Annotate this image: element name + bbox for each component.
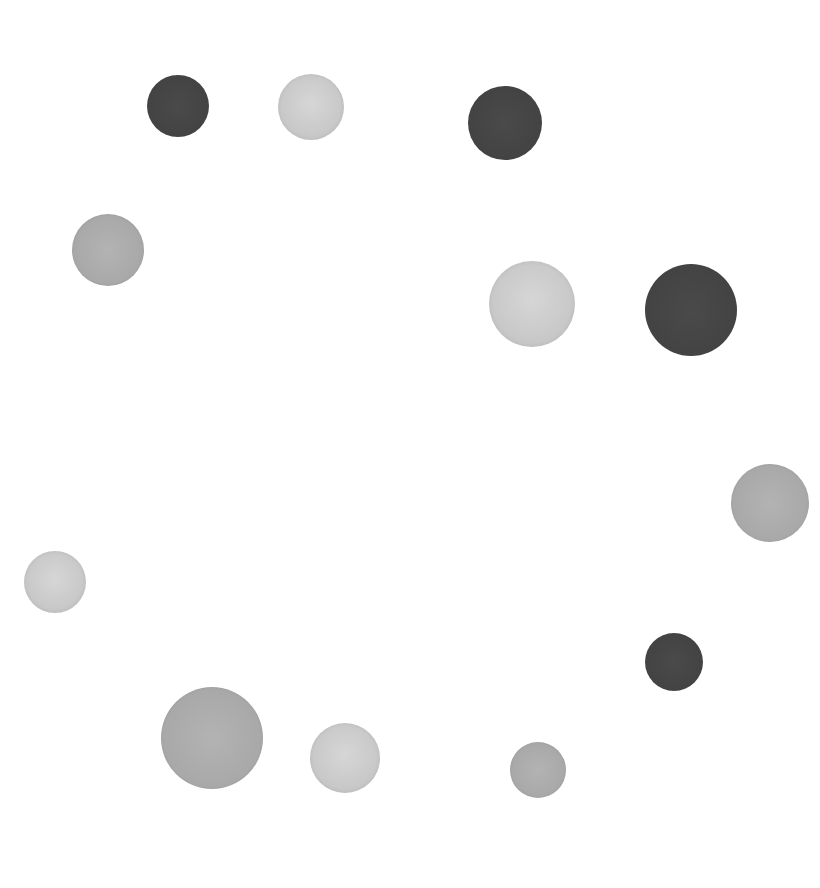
painted-dots-canvas xyxy=(0,0,820,888)
dark-painted-dot xyxy=(147,75,209,137)
mid-painted-dot xyxy=(161,687,263,789)
dark-painted-dot xyxy=(645,633,703,691)
dark-painted-dot xyxy=(468,86,542,160)
light-painted-dot xyxy=(310,723,380,793)
light-painted-dot xyxy=(489,261,575,347)
mid-painted-dot xyxy=(731,464,809,542)
light-painted-dot xyxy=(278,74,344,140)
mid-painted-dot xyxy=(72,214,144,286)
mid-painted-dot xyxy=(510,742,566,798)
dark-painted-dot xyxy=(645,264,737,356)
light-painted-dot xyxy=(24,551,86,613)
